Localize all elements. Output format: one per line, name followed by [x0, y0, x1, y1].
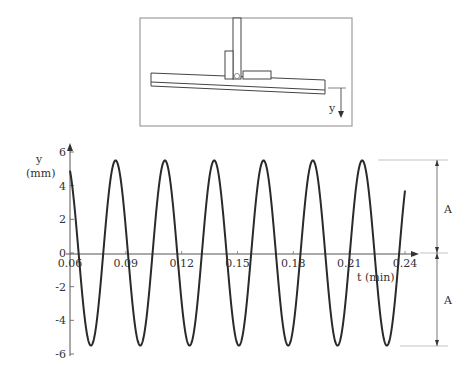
- x-tick-label: 0.09: [114, 257, 139, 270]
- plank-edge: [151, 82, 325, 90]
- y-tick-label: -4: [55, 314, 66, 327]
- amplitude-label-top: A: [443, 203, 453, 216]
- pivot-icon: [234, 73, 239, 78]
- seesaw-diagram: y: [140, 18, 352, 126]
- y-tick-label: 6: [59, 146, 66, 159]
- arrow-up-icon: [435, 253, 439, 259]
- displacement-chart: 6420-2-4-6 0.060.090.120.150.180.210.24 …: [26, 143, 453, 361]
- y-tick-label: -2: [55, 281, 66, 294]
- y-axis-arrow-icon: [67, 143, 73, 151]
- arrow-down-icon: [435, 340, 439, 346]
- x-tick-label: 0.24: [393, 257, 418, 270]
- x-tick-label: 0.18: [281, 257, 306, 270]
- y-axis-label-symbol: y: [35, 153, 43, 166]
- x-tick-label: 0.15: [225, 257, 250, 270]
- right-block: [243, 71, 271, 79]
- x-tick-label: 0.12: [169, 257, 194, 270]
- left-block: [225, 51, 233, 79]
- y-tick-label: 4: [59, 180, 66, 193]
- figure: y 6420-2-4-6 0.060.090.120.150.180.210.2…: [0, 0, 475, 378]
- y-tick-label: 2: [59, 213, 66, 226]
- arrow-down-icon: [435, 247, 439, 253]
- vertical-post: [233, 18, 241, 79]
- arrow-up-icon: [435, 160, 439, 166]
- y-tick-label: -6: [55, 348, 66, 361]
- arrow-down-icon: [338, 111, 344, 118]
- y-axis-label-unit: (mm): [26, 167, 55, 180]
- diagram-y-label: y: [328, 102, 336, 115]
- amplitude-label-bottom: A: [443, 294, 453, 307]
